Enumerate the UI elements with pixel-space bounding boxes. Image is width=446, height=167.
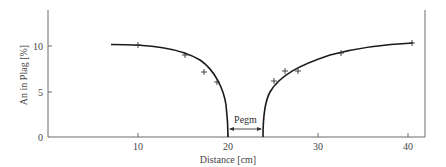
x-tick-10: 10 [133,141,143,152]
pegm-annotation: Pegm [229,114,262,131]
x-tick-20: 20 [223,141,233,152]
x-tick-30: 30 [313,141,323,152]
pegm-label: Pegm [234,114,257,125]
left-curve [111,45,228,138]
y-tick-0: 0 [38,132,43,143]
right-curve [263,43,413,137]
x-tick-40: 40 [403,141,413,152]
y-axis-label: An in Plag [%] [18,45,29,105]
y-tick-10: 10 [33,41,43,52]
y-tick-5: 5 [38,87,43,98]
x-axis-label: Distance [cm] [200,154,256,165]
x-ticks: 10 20 30 40 [133,133,413,152]
y-ticks: 10 5 0 [33,41,52,143]
chart: 10 5 0 10 20 30 40 Distance [cm] An in P… [0,0,446,167]
